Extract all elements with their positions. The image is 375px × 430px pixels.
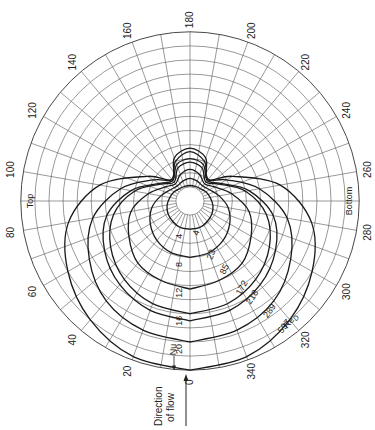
angle-tick-label: 340: [246, 362, 257, 379]
grid-ring: [176, 187, 204, 215]
angle-tick-label: 300: [341, 283, 352, 300]
radial-tick-label: 4: [174, 234, 184, 239]
region-label-top: Top: [25, 194, 35, 209]
grid-spoke: [201, 210, 320, 310]
angle-tick-label: 180: [184, 11, 195, 28]
angle-tick-label: 20: [122, 365, 133, 377]
angle-tick-label: 260: [362, 161, 373, 178]
grid-spoke: [60, 92, 179, 192]
angle-tick-label: 320: [300, 331, 311, 348]
axis-labels: 0204060801001201401601802002202402602803…: [5, 11, 373, 385]
flow-label-line2: of flow: [165, 392, 176, 422]
series-label-re-23: 23: [205, 248, 218, 261]
polar-chart: 0204060801001201401601802002202402602803…: [0, 0, 375, 430]
grid-spoke: [199, 212, 299, 331]
series-label-re-4: 4: [191, 229, 202, 236]
grid-spoke: [201, 92, 320, 192]
angle-tick-label: 120: [27, 102, 38, 119]
angle-tick-label: 140: [67, 53, 78, 70]
arrow-head-icon: [184, 374, 189, 381]
nu-axis-label: Nu: [168, 344, 178, 356]
direction-of-flow-annotation: Direction of flow: [148, 372, 204, 428]
polar-grid: [21, 32, 359, 370]
angle-tick-label: 100: [5, 161, 16, 178]
angle-tick-label: 160: [122, 22, 133, 39]
grid-spoke: [81, 212, 181, 331]
region-label-bottom: Bottom: [344, 187, 354, 216]
angle-tick-label: 240: [341, 102, 352, 119]
grid-spoke: [192, 215, 219, 368]
grid-spoke: [81, 71, 181, 190]
radial-tick-label: 12: [174, 288, 184, 298]
series-label-re-85: 85: [218, 262, 231, 275]
angle-tick-label: 220: [300, 53, 311, 70]
grid-spoke: [199, 71, 299, 190]
radial-tick-label: 8: [174, 262, 184, 267]
angle-tick-label: 200: [246, 22, 257, 39]
angle-tick-label: 40: [67, 334, 78, 346]
angle-tick-label: 80: [5, 226, 16, 238]
flow-label-line1: Direction: [153, 387, 164, 426]
angle-tick-label: 280: [362, 224, 373, 241]
grid-spoke: [60, 210, 179, 310]
radial-tick-label: 16: [174, 316, 184, 326]
angle-tick-label: 60: [27, 286, 38, 298]
